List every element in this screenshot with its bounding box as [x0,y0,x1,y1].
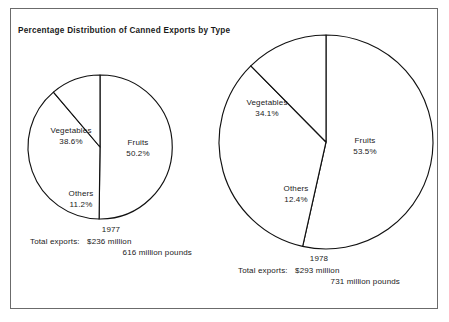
pie-1977-label-vegetables-pct: 38.6% [36,137,106,148]
pie-1977-totals-weight: 616 million pounds [30,247,192,258]
pie-1977-label-fruits: Fruits 50.2% [110,138,166,159]
pie-1978-label-others-pct: 12.4% [270,195,322,206]
pie-1978-label-fruits: Fruits 53.5% [337,136,393,157]
pie-1977-caption: 1977 Total exports: $236 million 616 mil… [30,224,192,258]
pie-1977-totals-money: $236 million [87,236,132,247]
pie-1978-totals-weight: 731 million pounds [238,276,400,287]
pie-1977-label-others-pct: 11.2% [55,200,107,211]
pie-1978-totals-money: $293 million [295,265,340,276]
pie-1978-label-vegetables-pct: 34.1% [232,109,302,120]
pie-1978-totals-label: Total exports: [238,265,288,276]
figure-canvas: Percentage Distribution of Canned Export… [0,0,449,322]
pie-1977-label-others: Others 11.2% [55,189,107,210]
pie-1977-totals-label: Total exports: [30,236,80,247]
pie-1977-label-fruits-pct: 50.2% [110,149,166,160]
pie-1978-totals-row: Total exports: $293 million [238,265,400,276]
pie-1977-year: 1977 [30,224,192,235]
pie-1978-caption: 1978 Total exports: $293 million 731 mil… [238,253,400,287]
pie-1978-label-others-text: Others [284,184,309,193]
pie-1978-year: 1978 [238,253,400,264]
pie-1978-label-fruits-pct: 53.5% [337,147,393,158]
pie-1977-label-vegetables: Vegetables 38.6% [36,126,106,147]
pie-1978 [219,35,433,249]
pie-1977-label-others-text: Others [69,189,94,198]
pie-1977-label-vegetables-text: Vegetables [50,126,91,135]
pie-1977-totals-row: Total exports: $236 million [30,236,192,247]
pie-1977-label-fruits-text: Fruits [128,138,149,147]
pie-1978-label-fruits-text: Fruits [355,136,376,145]
pie-1978-label-vegetables-text: Vegetables [246,98,287,107]
pie-1978-label-vegetables: Vegetables 34.1% [232,98,302,119]
pie-1978-label-others: Others 12.4% [270,184,322,205]
